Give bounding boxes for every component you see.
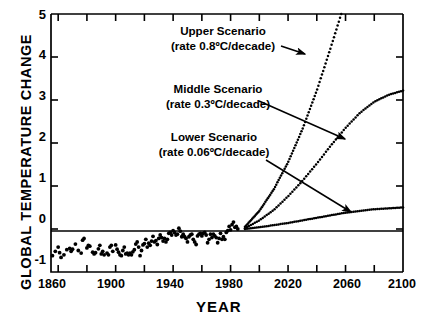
observed-data-points (51, 220, 240, 259)
lower-scenario-curve (244, 206, 405, 230)
upper-scenario-curve (244, 13, 343, 228)
annotation-leaders (259, 46, 351, 212)
middle-scenario-arrow (259, 101, 345, 139)
figure-root: GLOBAL TEMPERATURE CHANGE 5 4 3 2 1 0 -1… (0, 0, 426, 322)
upper-scenario-arrow (281, 46, 305, 54)
plot-canvas (0, 0, 426, 322)
lower-scenario-arrow (266, 160, 351, 212)
scenario-curves (244, 13, 405, 231)
